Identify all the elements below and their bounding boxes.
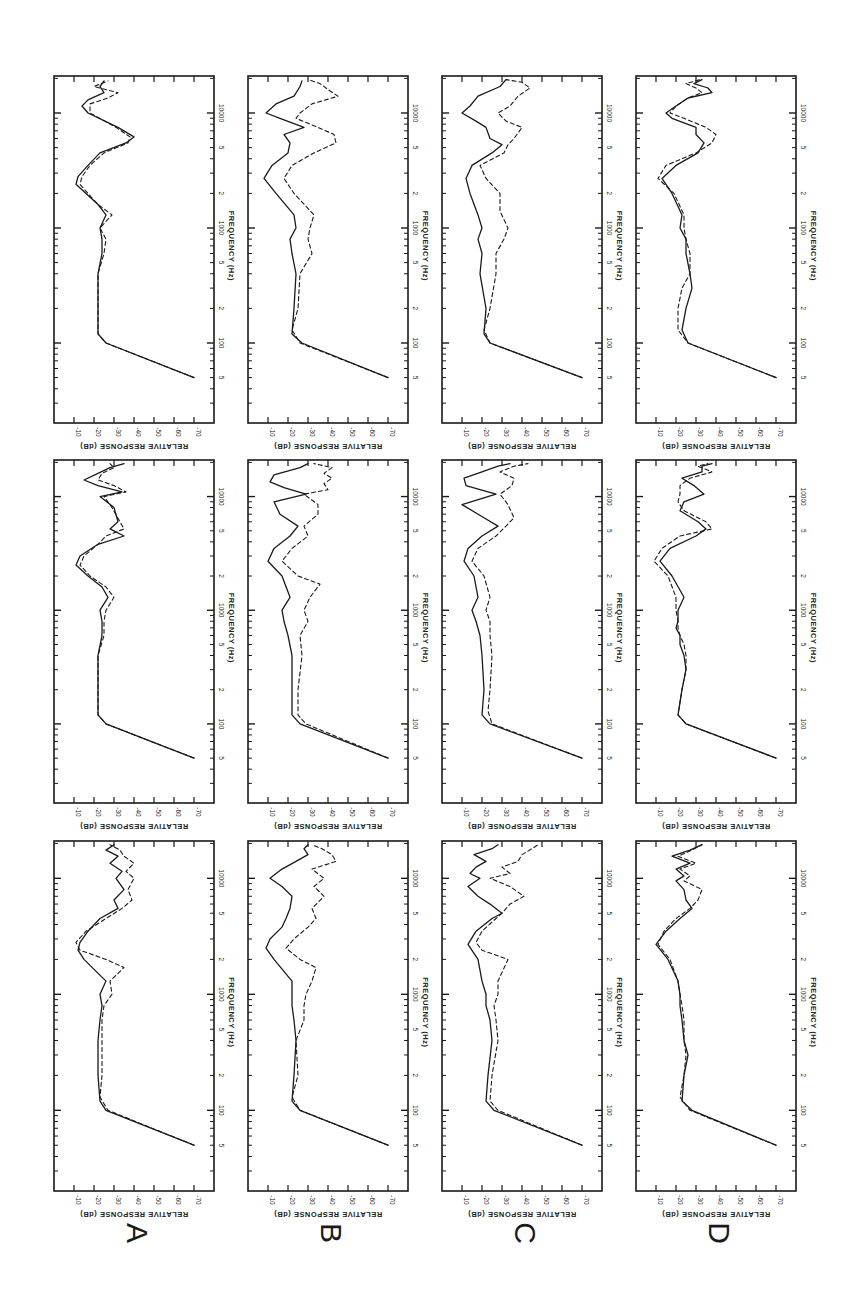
response-plot: -10-20-30-40-50-60-7051002510002510000FR… <box>248 76 448 463</box>
db-tick-label: -70 <box>195 427 202 437</box>
db-tick-label: -10 <box>657 427 664 437</box>
solid-response-curve <box>462 80 582 378</box>
frequency-axis-title: FREQUENCY (Hz) <box>615 593 624 663</box>
freq-tick-label: 2 <box>412 688 419 692</box>
db-tick-label: -10 <box>75 1195 82 1205</box>
panel-d-row-3: -10-20-30-40-50-60-7051002510002510000FR… <box>636 841 797 1191</box>
db-tick-label: -40 <box>717 807 724 817</box>
response-plot: -10-20-30-40-50-60-7051002510002510000FR… <box>636 460 836 843</box>
relative-response-axis-title: RELATIVE RESPONSE (dB) <box>80 822 188 831</box>
freq-tick-label: 5 <box>412 261 419 265</box>
db-tick-label: -40 <box>135 427 142 437</box>
solid-response-curve <box>268 464 388 758</box>
db-tick-label: -20 <box>677 807 684 817</box>
freq-tick-label: 1000 <box>218 987 225 1002</box>
relative-response-axis-title: RELATIVE RESPONSE (dB) <box>468 442 576 451</box>
freq-tick-label: 100 <box>800 338 807 349</box>
db-tick-label: -70 <box>389 807 396 817</box>
freq-tick-label: 5 <box>800 1027 807 1031</box>
panel-b-row-1: -10-20-30-40-50-60-7051002510002510000FR… <box>248 76 409 423</box>
freq-tick-label: 2 <box>218 688 225 692</box>
column-label-c: C <box>508 1218 542 1248</box>
db-tick-label: -70 <box>583 1195 590 1205</box>
freq-tick-label: 100 <box>412 718 419 729</box>
dashed-response-curve <box>286 845 388 1145</box>
freq-tick-label: 5 <box>606 756 613 760</box>
db-tick-label: -50 <box>155 807 162 817</box>
dashed-response-curve <box>80 464 194 758</box>
solid-response-curve <box>264 81 388 378</box>
db-tick-label: -30 <box>503 427 510 437</box>
frequency-axis-title: FREQUENCY (Hz) <box>227 211 236 281</box>
column-label-a: A <box>120 1218 154 1248</box>
freq-tick-label: 1000 <box>412 987 419 1002</box>
solid-response-curve <box>662 80 776 378</box>
db-tick-label: -20 <box>289 1195 296 1205</box>
freq-tick-label: 1000 <box>218 603 225 618</box>
freq-tick-label: 2 <box>218 192 225 196</box>
db-tick-label: -40 <box>329 807 336 817</box>
db-tick-label: -40 <box>717 427 724 437</box>
db-tick-label: -10 <box>75 427 82 437</box>
response-plot: -10-20-30-40-50-60-7051002510002510000FR… <box>248 841 448 1231</box>
dashed-response-curve <box>472 464 582 758</box>
plot-frame <box>442 460 602 803</box>
db-tick-label: -70 <box>777 427 784 437</box>
freq-tick-label: 100 <box>218 718 225 729</box>
db-tick-label: -10 <box>269 427 276 437</box>
freq-tick-label: 2 <box>800 958 807 962</box>
db-tick-label: -70 <box>389 1195 396 1205</box>
db-tick-label: -50 <box>155 427 162 437</box>
db-tick-label: -60 <box>369 427 376 437</box>
freq-tick-label: 2 <box>412 958 419 962</box>
db-tick-label: -50 <box>543 1195 550 1205</box>
freq-tick-label: 5 <box>412 376 419 380</box>
freq-tick-label: 1000 <box>412 221 419 236</box>
freq-tick-label: 10000 <box>606 869 613 887</box>
db-tick-label: -20 <box>677 1195 684 1205</box>
db-tick-label: -40 <box>329 427 336 437</box>
plot-frame <box>442 841 602 1191</box>
panel-a-row-3: -10-20-30-40-50-60-7051002510002510000FR… <box>54 841 215 1191</box>
freq-tick-label: 2 <box>412 307 419 311</box>
freq-tick-label: 5 <box>800 376 807 380</box>
freq-tick-label: 1000 <box>606 603 613 618</box>
relative-response-axis-title: RELATIVE RESPONSE (dB) <box>274 822 382 831</box>
freq-tick-label: 5 <box>606 911 613 915</box>
db-tick-label: -10 <box>75 807 82 817</box>
freq-tick-label: 100 <box>606 718 613 729</box>
db-tick-label: -10 <box>657 807 664 817</box>
frequency-axis-title: FREQUENCY (Hz) <box>809 211 818 281</box>
db-tick-label: -30 <box>115 1195 122 1205</box>
column-label-b: B <box>314 1218 348 1248</box>
dashed-response-curve <box>76 845 194 1145</box>
db-tick-label: -40 <box>523 807 530 817</box>
dashed-response-curve <box>658 80 776 378</box>
db-tick-label: -30 <box>309 427 316 437</box>
db-tick-label: -20 <box>289 807 296 817</box>
freq-tick-label: 2 <box>800 1074 807 1078</box>
freq-tick-label: 10000 <box>412 488 419 506</box>
plot-frame <box>248 76 408 423</box>
freq-tick-label: 5 <box>606 529 613 533</box>
freq-tick-label: 5 <box>218 261 225 265</box>
freq-tick-label: 5 <box>218 529 225 533</box>
db-tick-label: -20 <box>95 427 102 437</box>
db-tick-label: -20 <box>95 807 102 817</box>
freq-tick-label: 2 <box>800 574 807 578</box>
freq-tick-label: 2 <box>800 307 807 311</box>
freq-tick-label: 10000 <box>412 104 419 122</box>
db-tick-label: -50 <box>543 427 550 437</box>
freq-tick-label: 2 <box>412 1074 419 1078</box>
freq-tick-label: 10000 <box>218 869 225 887</box>
freq-tick-label: 5 <box>412 1027 419 1031</box>
db-tick-label: -10 <box>463 427 470 437</box>
freq-tick-label: 100 <box>800 1105 807 1116</box>
freq-tick-label: 2 <box>606 688 613 692</box>
freq-tick-label: 1000 <box>800 987 807 1002</box>
dashed-response-curve <box>284 80 388 378</box>
solid-response-curve <box>76 81 194 378</box>
freq-tick-label: 5 <box>606 261 613 265</box>
freq-tick-label: 5 <box>218 146 225 150</box>
freq-tick-label: 5 <box>606 376 613 380</box>
